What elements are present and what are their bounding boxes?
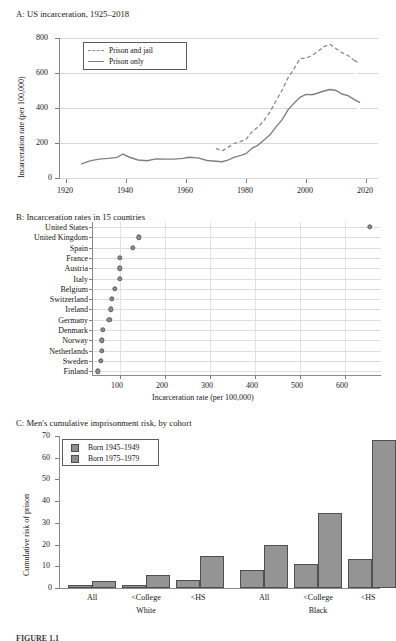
legend-label-born-1975-1979: Born 1975–1979	[88, 454, 139, 463]
row-line-netherlands	[93, 351, 381, 352]
dot-ireland	[108, 307, 113, 312]
panel-b-xtick-label-600: 600	[336, 381, 348, 390]
panel-c-xtick-label-black-college: <College	[292, 593, 344, 602]
ytick-400	[55, 108, 59, 109]
panel-a-legend: Prison and jail Prison only	[83, 42, 187, 70]
xtick-1920	[66, 179, 67, 183]
xtick-2000	[306, 179, 307, 183]
bar-black-college-1945	[294, 564, 318, 588]
panel-b-label-finland: Finland	[0, 367, 88, 376]
row-line-spain	[93, 248, 381, 249]
ytick-600	[55, 73, 59, 74]
gridline-0	[60, 178, 378, 179]
panel-a-ytick-label-200: 200	[36, 138, 48, 147]
panel-c-ytick-label-60: 60	[42, 453, 50, 462]
panel-b-label-ireland: Ireland	[0, 305, 88, 314]
dot-norway	[99, 338, 104, 343]
series-prison-only	[81, 90, 360, 165]
cat-tick-1	[89, 237, 92, 238]
ytick-800	[55, 38, 59, 39]
panel-a-ytick-label-0: 0	[48, 173, 52, 182]
panel-b-label-united-kingdom: United Kingdom	[0, 233, 88, 242]
panel-b-label-france: France	[0, 253, 88, 262]
panel-c-ytick-20	[55, 545, 59, 546]
row-line-norway	[93, 340, 381, 341]
panel-c-xtick-label-white-hs: <HS	[176, 593, 220, 602]
panel-c-ytick-40	[55, 501, 59, 502]
bar-black-college-1975	[318, 513, 342, 588]
dot-switzerland	[109, 296, 114, 301]
panel-b-xtick-100	[120, 376, 121, 379]
bar-white-hs-1945	[176, 580, 200, 588]
series-prison-and-jail	[216, 44, 360, 151]
panel-a-title: A: US incarceration, 1925–2018	[16, 9, 129, 19]
cat-tick-10	[89, 330, 92, 331]
panel-c-ytick-label-50: 50	[42, 474, 50, 483]
panel-b-label-united-states: United States	[0, 223, 88, 232]
panel-c-title: C: Men's cumulative imprisonment risk, b…	[16, 418, 192, 428]
panel-b-label-netherlands: Netherlands	[0, 346, 88, 355]
panel-c-ytick-label-10: 10	[42, 561, 50, 570]
cat-tick-9	[89, 320, 92, 321]
panel-b-xtick-label-400: 400	[246, 381, 258, 390]
panel-b-x-axis-title: Incarceration rate (per 100,000)	[152, 393, 254, 402]
panel-b-label-germany: Germany	[0, 315, 88, 324]
panel-b-xtick-label-500: 500	[291, 381, 303, 390]
swatch-icon-cohort-1945	[67, 444, 83, 452]
panel-b-label-switzerland: Switzerland	[0, 295, 88, 304]
row-line-ireland	[93, 309, 381, 310]
cat-tick-11	[89, 340, 92, 341]
dot-denmark	[100, 327, 105, 332]
panel-b-xtick-label-300: 300	[201, 381, 213, 390]
panel-b-x-axis	[92, 375, 381, 376]
figure-caption: FIGURE 1.1	[16, 634, 59, 641]
panel-a-xtick-label-1940: 1940	[117, 186, 133, 195]
dot-france	[117, 255, 122, 260]
panel-c-xtick-label-black-all: All	[244, 593, 284, 602]
panel-a-ytick-label-400: 400	[36, 103, 48, 112]
cat-tick-0	[89, 227, 92, 228]
panel-c-ytick-10	[55, 566, 59, 567]
solid-line-key-icon	[88, 61, 104, 62]
dot-austria	[117, 265, 122, 270]
panel-c-xtick-label-white-all: All	[72, 593, 112, 602]
panel-a-xtick-label-2000: 2000	[297, 186, 313, 195]
dot-belgium	[112, 286, 117, 291]
panel-b-xtick-400	[255, 376, 256, 379]
dot-united-kingdom	[136, 235, 141, 240]
panel-a-xtick-label-2020: 2020	[357, 186, 373, 195]
cat-tick-12	[89, 351, 92, 352]
panel-a-ytick-label-600: 600	[36, 68, 48, 77]
cat-tick-14	[89, 371, 92, 372]
panel-b-label-italy: Italy	[0, 274, 88, 283]
swatch-icon-cohort-1975	[67, 455, 83, 463]
panel-c: C: Men's cumulative imprisonment risk, b…	[0, 408, 388, 641]
row-line-denmark	[93, 330, 381, 331]
row-line-finland	[93, 371, 381, 372]
legend-label-born-1945-1949: Born 1945–1949	[88, 443, 139, 452]
panel-a-y-axis	[59, 38, 60, 179]
panel-a-ytick-label-800: 800	[36, 33, 48, 42]
cat-tick-6	[89, 289, 92, 290]
panel-c-legend: Born 1945–1949 Born 1975–1979	[62, 439, 159, 466]
row-line-austria	[93, 268, 381, 269]
panel-c-y-axis-title: Cumulative risk of prison	[22, 494, 31, 576]
panel-c-x-axis	[59, 588, 380, 589]
bar-black-all-1975	[264, 545, 288, 588]
panel-c-xtick-label-black-hs: <HS	[348, 593, 388, 602]
xtick-1940	[126, 179, 127, 183]
panel-c-ytick-60	[55, 458, 59, 459]
panel-c-ytick-label-30: 30	[42, 518, 50, 527]
row-line-belgium	[93, 289, 381, 290]
xtick-1980	[246, 179, 247, 183]
cat-tick-7	[89, 299, 92, 300]
row-line-germany	[93, 320, 381, 321]
panel-b-xtick-500	[300, 376, 301, 379]
legend-item-born-1975-1979: Born 1975–1979	[63, 453, 158, 464]
panel-c-ytick-label-20: 20	[42, 540, 50, 549]
legend-item-prison-only: Prison only	[84, 56, 186, 67]
panel-b-label-austria: Austria	[0, 264, 88, 273]
panel-c-group-label-black: Black	[292, 606, 344, 615]
series-prison-and-jail-tail	[354, 60, 360, 123]
